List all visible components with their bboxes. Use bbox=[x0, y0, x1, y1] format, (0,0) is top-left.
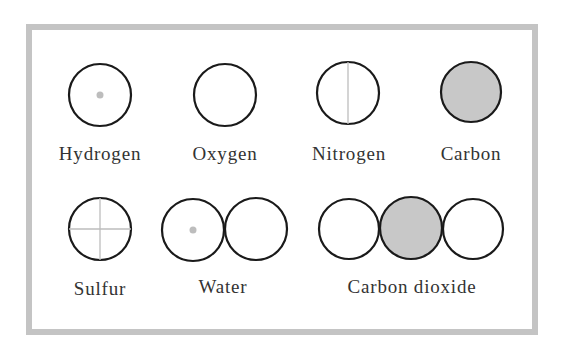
nitrogen-symbol bbox=[317, 62, 379, 124]
nitrogen-label: Nitrogen bbox=[312, 143, 386, 165]
hydrogen-symbol bbox=[69, 64, 131, 126]
water-label: Water bbox=[199, 276, 248, 298]
carbon-label: Carbon bbox=[441, 143, 502, 165]
water-symbol bbox=[162, 198, 287, 261]
hydrogen-label: Hydrogen bbox=[59, 143, 141, 165]
oxygen-label: Oxygen bbox=[193, 143, 258, 165]
oxygen-symbol bbox=[194, 64, 256, 126]
carbon-dioxide-label: Carbon dioxide bbox=[348, 276, 477, 298]
sulfur-label: Sulfur bbox=[74, 278, 126, 300]
carbon-symbol bbox=[441, 62, 501, 122]
carbon-dioxide-symbol bbox=[319, 197, 503, 259]
sulfur-symbol bbox=[69, 198, 131, 260]
